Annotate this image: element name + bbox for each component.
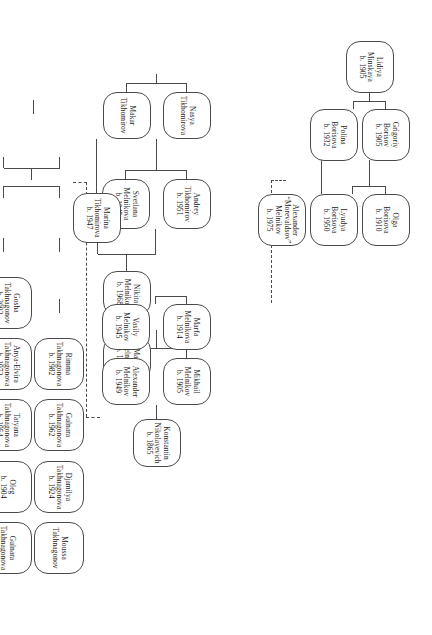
person-node[interactable]: Olga Borisova b. 1910 (362, 194, 410, 246)
connector (33, 100, 34, 114)
person-node[interactable]: Mikhail Melnikov b. 1905 (163, 358, 211, 405)
person-name: Grigoriy Borisov (382, 122, 399, 148)
person-birth: b. 1904 (0, 476, 7, 499)
connector (156, 405, 157, 419)
connector (186, 83, 187, 92)
connector (353, 186, 386, 187)
family-tree-page: Grigoriy Borisov b. 1905 Polina Borisova… (0, 0, 432, 635)
person-birth: b. 1932 (321, 124, 330, 147)
person-name: Svetlana Melnikova (122, 188, 139, 221)
person-node[interactable]: Alexander Melnikov b. 1949 (102, 358, 150, 405)
connector (96, 139, 97, 183)
connector (3, 238, 4, 252)
person-name: Gulnara Takhnagonova (0, 526, 16, 571)
person-node[interactable]: Marina Tikhomirova b. 1947 (73, 193, 121, 243)
person-name: Polina Borisova (330, 112, 347, 158)
person-name: Marina Tikhomirova (93, 198, 110, 237)
person-node[interactable]: Marfa Melnikova b. 1914 (163, 304, 211, 350)
person-node[interactable]: Alexander “Morevaldsov” Melnikov b. 1975 (258, 194, 306, 246)
connector (125, 170, 126, 179)
connector (4, 168, 60, 169)
connector (321, 186, 322, 194)
person-name: Djamilya Takhnagonova (55, 465, 72, 510)
dashed-connector (271, 180, 286, 181)
person-birth: b. 1949 (113, 370, 122, 393)
person-birth: b. 1951 (174, 193, 183, 216)
connector (31, 168, 32, 180)
connector (156, 330, 157, 348)
person-node[interactable]: Polina Borisova b. 1932 (310, 109, 358, 161)
dashed-connector (73, 182, 87, 183)
dashed-connector (86, 417, 100, 418)
person-name: Alexander “Morevaldsov” Melnikov (273, 197, 299, 244)
person-name: Marfa Melnikova (183, 311, 200, 344)
person-node[interactable]: Gosha Takhnagonov b. 2002 (0, 277, 32, 329)
person-node[interactable]: Andrey Tikhomirov b. 1951 (163, 179, 211, 229)
connector (126, 170, 187, 171)
person-name: Gosha Takhnagonov (3, 282, 20, 323)
connector (156, 296, 187, 297)
connector (127, 83, 187, 84)
person-node[interactable]: Makar Tikhomirov (103, 92, 151, 139)
connector (385, 101, 386, 109)
person-birth: b. 1905 (373, 124, 382, 147)
person-node[interactable]: Vasily Melnikov b. 1945 (102, 304, 150, 350)
connector (369, 160, 370, 186)
connector (4, 186, 60, 187)
person-birth: b. 1972 (0, 353, 3, 376)
person-birth: b. 1905 (174, 370, 183, 393)
connector (59, 238, 60, 252)
person-node[interactable]: Moussa Takhnagonov (34, 522, 84, 574)
person-birth: b. 1968 (114, 282, 123, 305)
connector (59, 299, 60, 313)
person-node[interactable]: Nasya Tikhomirova (163, 92, 211, 139)
connector (321, 160, 322, 186)
person-node[interactable]: Grigoriy Borisov b. 1905 (362, 109, 410, 161)
connector (126, 83, 127, 92)
person-birth: b. 1865 (144, 432, 153, 455)
person-birth: b. 2002 (0, 292, 3, 315)
connector (156, 139, 157, 170)
person-name: Rimma Takhnagonova (55, 342, 72, 387)
person-name: Moussa Takhnagonov (50, 527, 67, 568)
connector (385, 186, 386, 194)
connector (369, 101, 370, 102)
person-node[interactable]: Lyudya Borisova b. 1950 (310, 194, 358, 246)
connector (3, 157, 4, 168)
person-name: Alexander Melnikov (122, 366, 139, 398)
person-node[interactable]: Oleg b. 1904 (0, 461, 32, 513)
connector (59, 186, 60, 198)
connector (352, 186, 353, 194)
person-node[interactable]: Gulnara Takhnagonova (0, 522, 32, 574)
person-node[interactable]: Gulnara Takhnagonova b. 1962 (34, 399, 84, 451)
person-node[interactable]: Tatyana Takhnagonova b. 1954 (0, 399, 32, 451)
person-node[interactable]: Anya-Elvira Takhnagonova b. 1972 (0, 338, 32, 390)
person-node[interactable]: Rimma Takhnagonova b. 1982 (34, 338, 84, 390)
person-birth: b. 1947 (84, 207, 93, 230)
person-node[interactable]: Konstantin Nikolayevich b. 1865 (133, 419, 181, 467)
person-birth: b. 1924 (46, 476, 55, 499)
person-name: Andrey Tikhomirov (183, 186, 200, 222)
person-name: Nasya Tikhomirova (178, 96, 195, 135)
person-name: Mikhail Melnikov (183, 367, 200, 397)
person-name: Konstantin Nikolayevich (153, 422, 170, 463)
person-name: Vasily Melnikov (122, 312, 139, 342)
person-birth: b. 1982 (46, 353, 55, 376)
person-name: Tatyana Takhnagonova (3, 403, 20, 448)
family-tree-canvas: Grigoriy Borisov b. 1905 Polina Borisova… (0, 0, 432, 635)
connector (126, 254, 127, 271)
person-birth: b. 1962 (46, 414, 55, 437)
person-node[interactable]: Lidiya Minskaya b. 1905 (346, 41, 394, 93)
connector (59, 157, 60, 168)
person-birth: b. 1950 (321, 209, 330, 232)
connector (156, 74, 157, 83)
person-birth: b. 1954 (0, 414, 3, 437)
person-birth: b. 1945 (113, 316, 122, 339)
connector (3, 186, 4, 198)
person-node[interactable]: Djamilya Takhnagonova b. 1924 (34, 461, 84, 513)
person-name: Anya-Elvira Takhnagonova (3, 342, 20, 387)
connector (98, 254, 156, 255)
connector (186, 170, 187, 179)
connector (186, 296, 187, 304)
connector (155, 296, 156, 304)
